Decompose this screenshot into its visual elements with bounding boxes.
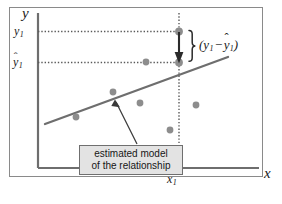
estimated-model-callout: estimated model of the relationship bbox=[79, 145, 183, 175]
residual-expression-label: (y1−ˆy1) bbox=[199, 38, 238, 53]
residual-close-paren: ) bbox=[234, 37, 238, 52]
y-tick-label-y1: y1 bbox=[14, 25, 24, 39]
x-axis-label: x bbox=[264, 166, 271, 181]
residual-term2-hatted-base: ˆy bbox=[224, 38, 230, 51]
y-tick-label-yhat1: ˆy1 bbox=[13, 56, 23, 70]
data-point bbox=[167, 127, 174, 134]
residual-minus-operator: − bbox=[213, 37, 223, 52]
data-point bbox=[193, 102, 200, 109]
y-axis-label: y bbox=[22, 6, 29, 21]
x-tick-label-x1: x1 bbox=[167, 173, 177, 187]
x1-subscript: 1 bbox=[172, 178, 176, 187]
estimated-model-line bbox=[45, 57, 228, 124]
callout-leader-arrowhead bbox=[111, 100, 120, 108]
hat-accent-icon: ˆ bbox=[224, 32, 230, 44]
callout-line-2: of the relationship bbox=[82, 160, 180, 172]
regression-residual-figure: y x y1 ˆy1 x1 (y1−ˆy1) estimated model o… bbox=[0, 0, 282, 204]
yhat1-subscript: 1 bbox=[18, 61, 22, 70]
data-point bbox=[73, 114, 80, 121]
residual-brace bbox=[189, 31, 195, 62]
yhat1-hatted-base: ˆy bbox=[13, 56, 18, 68]
y1-subscript: 1 bbox=[19, 30, 23, 39]
callout-leader-line bbox=[116, 102, 137, 144]
callout-line-1: estimated model bbox=[82, 148, 180, 160]
hat-accent-icon: ˆ bbox=[13, 51, 18, 62]
scatter-points bbox=[73, 59, 200, 134]
data-point bbox=[110, 89, 117, 96]
data-point bbox=[143, 59, 150, 66]
data-point bbox=[137, 100, 144, 107]
